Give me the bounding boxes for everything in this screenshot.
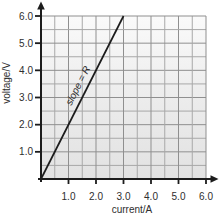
chart-canvas: 1.02.03.04.05.06.01.02.03.04.05.06.0volt… xyxy=(0,0,223,219)
y-axis-arrowhead-icon xyxy=(37,2,45,10)
y-tick-label: 5.0 xyxy=(19,38,33,49)
voltage-current-graph: 1.02.03.04.05.06.01.02.03.04.05.06.0volt… xyxy=(0,0,223,219)
x-axis-arrowhead-icon xyxy=(211,175,219,183)
x-tick-label: 4.0 xyxy=(144,191,158,202)
y-tick-label: 3.0 xyxy=(19,92,33,103)
x-tick-label: 3.0 xyxy=(117,191,131,202)
y-tick-label: 2.0 xyxy=(19,119,33,130)
y-tick-label: 1.0 xyxy=(19,146,33,157)
x-tick-label: 1.0 xyxy=(62,191,76,202)
y-axis-title: voltage/V xyxy=(1,62,12,104)
x-tick-label: 5.0 xyxy=(172,191,186,202)
x-tick-label: 2.0 xyxy=(89,191,103,202)
x-tick-label: 6.0 xyxy=(199,191,213,202)
x-axis-title: current/A xyxy=(112,204,153,215)
y-tick-label: 6.0 xyxy=(19,11,33,22)
y-tick-label: 4.0 xyxy=(19,65,33,76)
